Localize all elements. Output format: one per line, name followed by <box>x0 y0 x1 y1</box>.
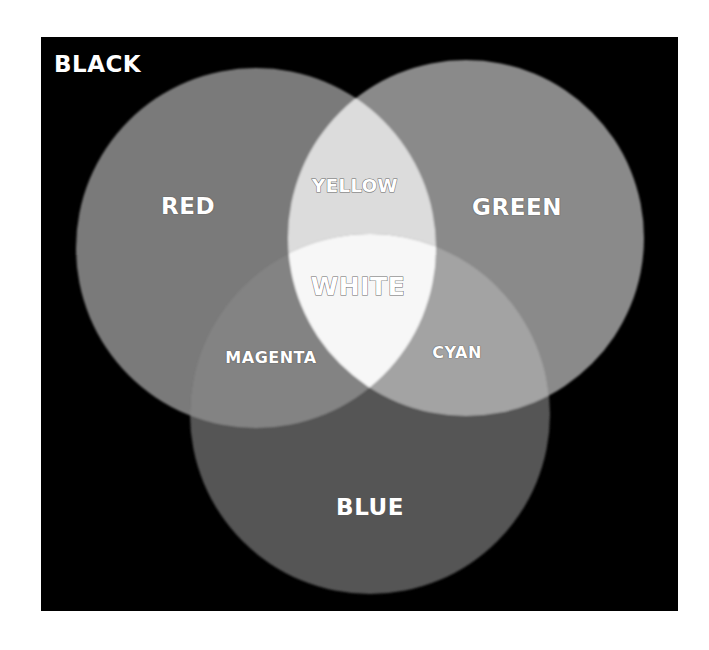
green-label: GREEN <box>472 196 562 219</box>
magenta-label: MAGENTA <box>225 350 316 366</box>
cyan-label: CYAN <box>432 345 482 361</box>
rgb-venn-diagram <box>0 0 709 650</box>
black-label: BLACK <box>54 53 141 76</box>
blue-label: BLUE <box>336 496 404 519</box>
white-label: WHITE <box>311 274 405 299</box>
red-label: RED <box>161 195 215 218</box>
yellow-label: YELLOW <box>312 177 398 195</box>
